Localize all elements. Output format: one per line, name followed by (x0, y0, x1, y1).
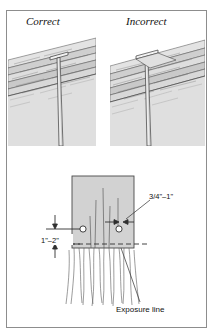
edge-dimension-label: 3/4"–1" (149, 192, 173, 201)
label-incorrect: Incorrect (126, 15, 167, 27)
section-gap (8, 146, 206, 174)
fringe-texture (66, 248, 139, 306)
panel-correct-artwork (8, 38, 96, 146)
label-correct: Correct (26, 15, 60, 27)
vertical-dimension-label: 1"–2" (41, 236, 59, 245)
figure-artwork (0, 0, 215, 335)
panel-incorrect-artwork (110, 40, 205, 146)
nail-hole-left (80, 226, 86, 232)
nail-hole-right (116, 226, 122, 232)
shingle-nailing-figure: Correct Incorrect 3/4"–1" 1"–2" Exposure… (0, 0, 215, 335)
exposure-line-label: Exposure line (116, 305, 164, 314)
panel-gutter (96, 12, 110, 146)
